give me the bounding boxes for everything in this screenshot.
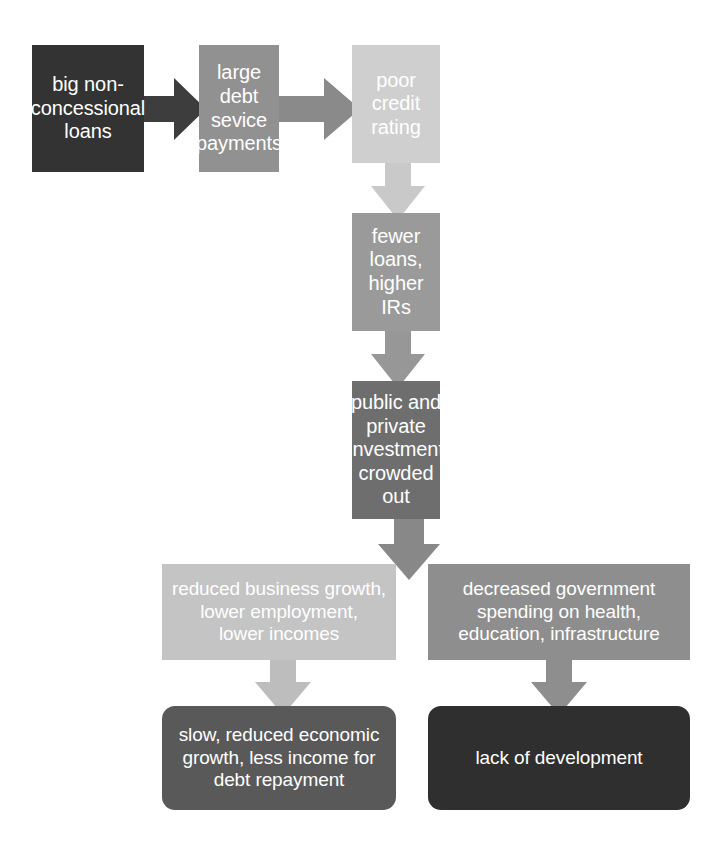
arrow-fewer-loans-to-crowded-out	[371, 324, 425, 388]
node-slow-reduced-economic-growth: slow, reduced economic growth, less inco…	[162, 706, 396, 810]
node-fewer-loans-higher-irs: fewer loans, higher IRs	[352, 213, 440, 331]
node-reduced-business-growth: reduced business growth, lower employmen…	[162, 564, 396, 660]
node-public-private-investment-crowded-out: public and private investment crowded ou…	[352, 381, 440, 519]
arrow-credit-rating-to-fewer-loans	[371, 156, 425, 220]
arrow-debt-service-to-credit-rating	[272, 74, 360, 144]
node-decreased-government-spending: decreased government spending on health,…	[428, 564, 690, 660]
node-lack-of-development: lack of development	[428, 706, 690, 810]
flowchart-diagram: big non- concessional loans large debt s…	[0, 0, 723, 867]
node-large-debt-service-payments: large debt sevice payments	[199, 45, 279, 172]
node-big-non-concessional-loans: big non- concessional loans	[32, 45, 144, 172]
node-poor-credit-rating: poor credit rating	[352, 45, 440, 163]
